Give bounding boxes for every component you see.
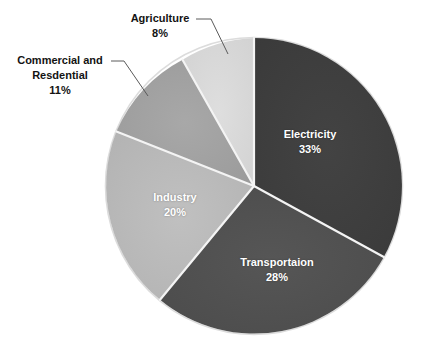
slice-label-transportaion: Transportaion 28%	[212, 255, 342, 284]
leader-line-commercial-and-resdential	[111, 61, 148, 96]
callout-label-agriculture-name: Agriculture	[124, 11, 196, 26]
slice-label-industry: Industry 20%	[129, 190, 221, 219]
pie-chart: Electricity 33% Transportaion 28% Indust…	[0, 0, 430, 354]
callout-label-commercial-line-1: Commercial and	[10, 53, 110, 68]
slice-label-electricity-name: Electricity	[284, 128, 337, 140]
callout-label-agriculture: Agriculture 8%	[124, 11, 196, 41]
slice-label-industry-value: 20%	[129, 205, 221, 220]
slice-label-transportaion-value: 28%	[212, 270, 342, 285]
callout-label-commercial-and-resdential: Commercial and Resdential 11%	[10, 53, 110, 98]
slice-label-electricity-value: 33%	[255, 142, 365, 157]
slice-label-electricity: Electricity 33%	[255, 127, 365, 156]
callout-label-commercial-line-2: Resdential	[10, 68, 110, 83]
slice-label-transportaion-name: Transportaion	[240, 256, 313, 268]
callout-label-commercial-value: 11%	[10, 83, 110, 98]
callout-label-agriculture-value: 8%	[124, 26, 196, 41]
slice-label-industry-name: Industry	[153, 191, 196, 203]
